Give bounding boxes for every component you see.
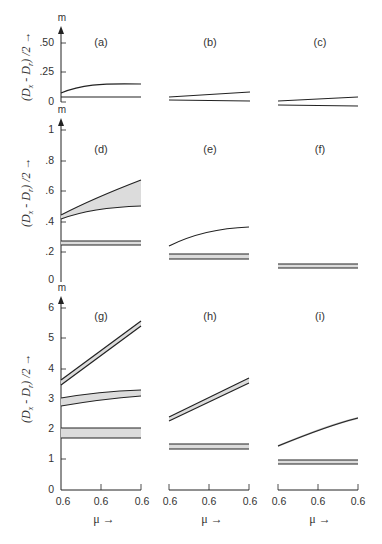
panel-label-g: (g) — [94, 310, 107, 322]
ytick-g-1: 1 — [24, 452, 54, 464]
x-axis-i — [278, 484, 358, 490]
panel-h-bands — [169, 378, 249, 449]
panel-label-a: (a) — [94, 36, 107, 48]
panel-label-d: (d) — [94, 143, 107, 155]
xtick-i-2: 0.6 — [351, 495, 366, 507]
xtick-i-1: 0.6 — [311, 495, 326, 507]
panel-label-i: (i) — [315, 310, 325, 322]
y-axis-label-row3: (Dx - Dr) /2 → — [19, 346, 35, 430]
xtick-h-0: 0.6 — [163, 495, 178, 507]
x-axis-label-h: μ → — [201, 512, 222, 527]
x-axis-label-g: μ → — [93, 512, 114, 527]
ytick-g-6: 6 — [24, 301, 54, 313]
panel-label-e: (e) — [203, 143, 216, 155]
ytick-g-0: 0 — [24, 483, 54, 495]
xtick-g-1: 0.6 — [94, 495, 109, 507]
ytick-g-5: 5 — [24, 331, 54, 343]
xtick-g-0: 0.6 — [56, 495, 71, 507]
panel-label-f: (f) — [315, 143, 325, 155]
y-axis-row2 — [58, 118, 66, 282]
xtick-g-2: 0.6 — [135, 495, 150, 507]
panel-label-c: (c) — [314, 36, 327, 48]
x-axis-g — [61, 484, 141, 490]
figure-canvas — [0, 0, 382, 544]
panel-d-bands — [61, 180, 141, 245]
y-axis-label-row2: (Dx - Dr) /2 → — [19, 150, 35, 234]
y-axis-label-row1: (Dx - Dr) /2 → — [19, 24, 35, 108]
xtick-h-1: 0.6 — [202, 495, 217, 507]
x-axis-h — [169, 484, 249, 490]
xtick-i-0: 0.6 — [272, 495, 287, 507]
x-axis-label-i: μ → — [309, 512, 330, 527]
panel-c-lines — [278, 97, 358, 106]
panel-a-lines — [61, 84, 141, 97]
panel-label-b: (b) — [203, 36, 216, 48]
ytick-d-0: 0 — [24, 273, 54, 285]
y-unit-row3: m — [58, 282, 66, 293]
y-axis-row1 — [58, 26, 66, 102]
panel-b-lines — [169, 92, 250, 101]
y-axis-row3 — [58, 296, 66, 490]
panel-g-bands — [61, 321, 141, 438]
panel-label-h: (h) — [203, 310, 216, 322]
xtick-h-2: 0.6 — [243, 495, 258, 507]
y-unit-row1: m — [58, 12, 66, 23]
ytick-d-1: 1 — [24, 123, 54, 135]
panel-f-bands — [278, 264, 358, 268]
panel-i-bands — [278, 417, 358, 464]
y-unit-row2: m — [58, 104, 66, 115]
ytick-d-02: .2 — [24, 245, 54, 257]
panel-e-bands — [169, 227, 249, 259]
